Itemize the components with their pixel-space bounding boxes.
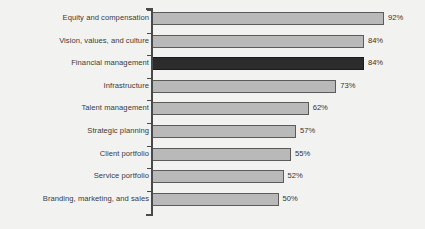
category-label: Talent management <box>0 103 149 113</box>
axis-tick <box>147 55 152 56</box>
axis-tick <box>147 33 152 34</box>
bar <box>153 35 364 48</box>
bar-value-label: 92% <box>388 13 403 23</box>
bar-row: Service portfolio52% <box>0 167 425 189</box>
bar-value-label: 73% <box>340 81 355 91</box>
category-label: Equity and compensation <box>0 13 149 23</box>
category-label: Branding, marketing, and sales <box>0 194 149 204</box>
bar-highlighted <box>153 57 364 70</box>
bar <box>153 125 296 138</box>
bar-value-label: 50% <box>283 194 298 204</box>
bar-row: Client portfolio55% <box>0 145 425 167</box>
category-label: Financial management <box>0 58 149 68</box>
category-label: Vision, values, and culture <box>0 36 149 46</box>
bar-row: Vision, values, and culture84% <box>0 32 425 54</box>
bar <box>153 12 384 25</box>
axis-tick <box>147 168 152 169</box>
bar-row: Infrastructure73% <box>0 77 425 99</box>
bar-row: Branding, marketing, and sales50% <box>0 190 425 212</box>
bar-value-label: 84% <box>368 58 383 68</box>
bar-value-label: 55% <box>295 149 310 159</box>
category-label: Service portfolio <box>0 171 149 181</box>
bar <box>153 102 309 115</box>
bar-value-label: 62% <box>313 103 328 113</box>
bar-value-label: 57% <box>300 126 315 136</box>
axis-tick <box>147 146 152 147</box>
bar-value-label: 84% <box>368 36 383 46</box>
y-axis-bottom-cap <box>146 214 153 216</box>
axis-tick <box>147 100 152 101</box>
bar <box>153 170 284 183</box>
axis-tick <box>147 191 152 192</box>
bar <box>153 80 336 93</box>
bar <box>153 193 279 206</box>
bar-row: Strategic planning57% <box>0 122 425 144</box>
axis-tick <box>147 123 152 124</box>
category-label: Strategic planning <box>0 126 149 136</box>
bar-row: Talent management62% <box>0 99 425 121</box>
category-label: Client portfolio <box>0 149 149 159</box>
bar-row: Equity and compensation92% <box>0 9 425 31</box>
bar-chart: Equity and compensation92%Vision, values… <box>0 0 425 229</box>
axis-tick <box>147 78 152 79</box>
bar-row: Financial management84% <box>0 54 425 76</box>
bar <box>153 148 291 161</box>
axis-tick <box>147 10 152 11</box>
category-label: Infrastructure <box>0 81 149 91</box>
bar-value-label: 52% <box>288 171 303 181</box>
